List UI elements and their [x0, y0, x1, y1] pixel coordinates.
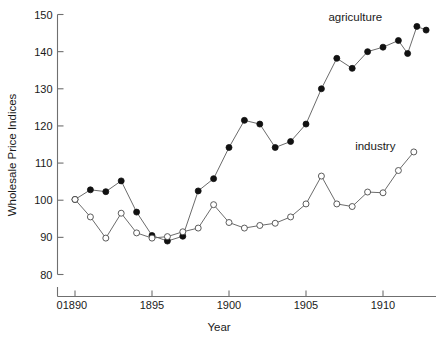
- data-point-agriculture: [303, 121, 309, 127]
- data-point-industry: [288, 214, 294, 220]
- y-tick-label: 90: [40, 231, 52, 243]
- y-tick-label: 150: [34, 9, 52, 21]
- series-annotation-agriculture: agriculture: [328, 11, 382, 23]
- data-point-industry: [334, 201, 340, 207]
- origin-tick-label: 0: [56, 299, 62, 311]
- x-axis-title: Year: [207, 321, 230, 333]
- y-tick-label: 140: [34, 46, 52, 58]
- data-point-industry: [257, 222, 263, 228]
- data-point-industry: [395, 168, 401, 174]
- data-point-agriculture: [211, 176, 217, 182]
- data-point-industry: [72, 196, 78, 202]
- data-point-agriculture: [241, 117, 247, 123]
- y-tick-label: 130: [34, 83, 52, 95]
- chart-container: 8090100110120130140150 18901895190019051…: [0, 0, 438, 340]
- data-point-industry: [365, 189, 371, 195]
- data-point-agriculture: [380, 44, 386, 50]
- y-tick-label: 80: [40, 269, 52, 281]
- data-point-agriculture: [257, 121, 263, 127]
- data-point-industry: [303, 201, 309, 207]
- data-point-industry: [272, 220, 278, 226]
- data-point-agriculture: [134, 209, 140, 215]
- data-point-agriculture: [226, 144, 232, 150]
- data-point-agriculture: [405, 51, 411, 57]
- data-point-industry: [87, 214, 93, 220]
- data-point-agriculture: [103, 189, 109, 195]
- data-point-industry: [380, 190, 386, 196]
- data-point-agriculture: [395, 38, 401, 44]
- data-point-industry: [318, 173, 324, 179]
- data-point-industry: [134, 230, 140, 236]
- data-point-industry: [226, 220, 232, 226]
- y-tick-label: 110: [35, 157, 53, 169]
- y-axis-title: Wholesale Price Indices: [6, 93, 18, 216]
- y-tick-label: 120: [34, 120, 52, 132]
- data-point-agriculture: [288, 139, 294, 145]
- y-tick-label: 100: [34, 194, 52, 206]
- data-point-agriculture: [318, 86, 324, 92]
- x-tick-label: 1900: [217, 299, 241, 311]
- y-axis-tick-marks: [58, 15, 64, 275]
- data-point-agriculture: [349, 65, 355, 71]
- wholesale-price-indices-line-chart: 8090100110120130140150 18901895190019051…: [0, 0, 438, 340]
- data-point-agriculture: [87, 187, 93, 193]
- data-point-industry: [149, 235, 155, 241]
- data-point-agriculture: [334, 55, 340, 61]
- x-tick-label: 1905: [294, 299, 318, 311]
- data-point-industry: [411, 149, 417, 155]
- data-point-industry: [164, 234, 170, 240]
- data-point-industry: [195, 225, 201, 231]
- data-point-industry: [211, 202, 217, 208]
- data-point-industry: [180, 229, 186, 235]
- series-annotation-industry: industry: [355, 140, 396, 152]
- x-axis-tick-marks: [75, 291, 383, 297]
- data-point-agriculture: [118, 178, 124, 184]
- series-line-agriculture: [75, 26, 426, 241]
- data-point-agriculture: [414, 23, 420, 29]
- x-tick-label: 1895: [140, 299, 164, 311]
- x-tick-label: 1910: [371, 299, 395, 311]
- data-point-agriculture: [195, 188, 201, 194]
- data-point-industry: [103, 235, 109, 241]
- data-point-industry: [118, 210, 124, 216]
- data-point-industry: [241, 225, 247, 231]
- data-point-agriculture: [272, 144, 278, 150]
- data-point-industry: [349, 204, 355, 210]
- series-markers-agriculture: [72, 23, 429, 244]
- y-axis-tick-labels: 8090100110120130140150: [34, 9, 52, 281]
- data-point-agriculture: [365, 49, 371, 55]
- x-axis-tick-labels: 18901895190019051910: [63, 299, 395, 311]
- x-tick-label: 1890: [63, 299, 87, 311]
- data-point-agriculture: [423, 27, 429, 33]
